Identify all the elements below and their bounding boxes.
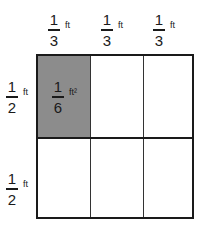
unit: ft xyxy=(118,20,123,30)
unit: ft xyxy=(65,20,70,30)
denominator: 6 xyxy=(54,100,62,115)
numerator: 1 xyxy=(8,79,16,94)
unit: ft xyxy=(23,87,28,97)
denominator: 3 xyxy=(155,33,163,48)
side-label-row2: 12 ft xyxy=(6,171,28,207)
denominator: 2 xyxy=(8,192,16,207)
side-label-row1: 12 ft xyxy=(6,79,28,115)
fraction-bar xyxy=(6,96,18,98)
numerator: 1 xyxy=(155,12,163,27)
denominator: 3 xyxy=(103,33,111,48)
unit: ft² xyxy=(69,87,77,97)
fraction-bar xyxy=(52,96,64,98)
unit: ft xyxy=(23,179,28,189)
row-divider xyxy=(38,137,192,139)
fraction-bar xyxy=(48,29,60,31)
fraction-bar xyxy=(153,29,165,31)
denominator: 3 xyxy=(50,33,58,48)
numerator: 1 xyxy=(50,12,58,27)
numerator: 1 xyxy=(8,171,16,186)
numerator: 1 xyxy=(54,79,62,94)
top-label-col3: 13 ft xyxy=(153,12,175,48)
top-label-col2: 13 ft xyxy=(101,12,123,48)
fraction-bar xyxy=(101,29,113,31)
top-label-col1: 13 ft xyxy=(48,12,70,48)
fraction-bar xyxy=(6,188,18,190)
unit: ft xyxy=(170,20,175,30)
denominator: 2 xyxy=(8,100,16,115)
numerator: 1 xyxy=(103,12,111,27)
shaded-cell-label: 16 ft² xyxy=(52,79,77,115)
